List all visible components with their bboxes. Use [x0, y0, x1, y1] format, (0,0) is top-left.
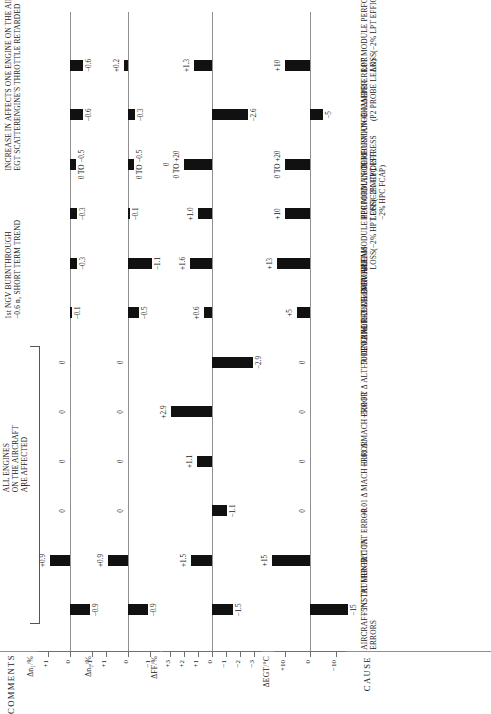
- bar-value-label: +1.6: [179, 234, 187, 294]
- bar-value-label: −0.5: [141, 283, 149, 343]
- tick-ff-6: [254, 651, 255, 657]
- bar: [194, 60, 212, 71]
- tick-n1-1: [70, 651, 71, 657]
- bar-value-label: −2.9: [255, 333, 263, 393]
- bar-value-label: +1.3: [183, 36, 191, 96]
- bar: [128, 110, 135, 121]
- bar-value-label: +10: [274, 36, 282, 96]
- tick-label-n2-2: −1: [144, 660, 152, 714]
- bar: [297, 308, 310, 319]
- bar-value-label: +0.2: [113, 36, 121, 96]
- tick-label-egt-2: −10: [330, 660, 338, 714]
- bar: [128, 209, 130, 220]
- tick-n2-0: [106, 651, 107, 657]
- comment-label: AFFECTS ONE ENGINE ON THE AIRCRAFT ENGIN…: [4, 0, 22, 121]
- bar-value-label: −0.9: [150, 580, 158, 640]
- bar: [212, 110, 248, 121]
- bar-value-label: −0.9: [92, 580, 100, 640]
- cause-header: CAUSE: [362, 656, 372, 714]
- bar: [108, 555, 128, 566]
- tick-egt-2: [336, 651, 337, 657]
- tick-ff-0: [170, 651, 171, 657]
- bar: [70, 258, 77, 269]
- bar: [70, 209, 77, 220]
- bar: [171, 407, 212, 418]
- bar-value-label: 0: [59, 333, 67, 393]
- tick-ff-4: [226, 651, 227, 657]
- bar-value-label: 0 TO +20: [173, 135, 181, 195]
- axis-title-egt: ΔEGT/°C: [262, 656, 271, 714]
- bar-value-label: −5: [325, 85, 333, 145]
- tick-egt-1: [310, 651, 311, 657]
- bar-value-label: 0: [299, 333, 307, 393]
- tick-ff-1: [184, 651, 185, 657]
- bar: [277, 258, 310, 269]
- tick-ff-5: [240, 651, 241, 657]
- bar: [70, 605, 90, 616]
- bar: [124, 60, 128, 71]
- tick-label-egt-0: +10: [279, 660, 287, 714]
- bar: [128, 258, 152, 269]
- tick-n2-2: [150, 651, 151, 657]
- tick-label-ff-3: 0: [206, 660, 214, 714]
- tick-n1-2: [92, 651, 93, 657]
- bar: [70, 110, 83, 121]
- axis-title-n1: Δn₁/%: [26, 656, 35, 714]
- bar-value-label: −1.1: [154, 234, 162, 294]
- tick-label-n2-1: 0: [122, 660, 130, 714]
- tick-label-ff-0: +3: [164, 660, 172, 714]
- bar: [70, 159, 76, 170]
- tick-label-n1-1: 0: [64, 660, 72, 714]
- bar-value-label: +0.9: [39, 531, 47, 591]
- tick-label-ff-2: +1: [192, 660, 200, 714]
- bar-value-label: −0.6: [85, 36, 93, 96]
- bar: [310, 110, 323, 121]
- baseline-n2: [128, 12, 129, 652]
- bar-value-label: +0.6: [193, 283, 201, 343]
- bar-value-label: +5: [286, 283, 294, 343]
- bar: [285, 60, 311, 71]
- bar-value-label: −2.6: [250, 85, 258, 145]
- bar-value-label: −1.1: [229, 481, 237, 541]
- bar-value-label: −0.3: [137, 85, 145, 145]
- tick-n1-0: [48, 651, 49, 657]
- bar-value-label: −1.5: [235, 580, 243, 640]
- tick-label-egt-1: 0: [304, 660, 312, 714]
- tick-label-ff-6: −3: [248, 660, 256, 714]
- bar: [285, 209, 311, 220]
- bar-value-label: +1.1: [186, 432, 194, 492]
- tick-label-n2-0: +1: [100, 660, 108, 714]
- bar: [50, 555, 70, 566]
- bar-value-label: −15: [350, 580, 358, 640]
- bar-value-label: +1.5: [180, 531, 188, 591]
- bar: [197, 456, 212, 467]
- bar-value-label: +15: [261, 531, 269, 591]
- comments-header: COMMENTS: [6, 656, 16, 714]
- figure-stage: +100−10ΔEGT/°C−15+150000+5+13+100 TO +20…: [0, 0, 491, 714]
- bar: [198, 209, 212, 220]
- tick-egt-0: [285, 651, 286, 657]
- bar: [70, 308, 72, 319]
- bar: [70, 60, 83, 71]
- bar: [128, 605, 148, 616]
- bracket-note: ALL ENGINES ON THE AIRCRAFT ARE AFFECTED: [2, 332, 29, 492]
- tick-label-ff-4: −1: [220, 660, 228, 714]
- bar: [204, 308, 212, 319]
- bar: [212, 605, 233, 616]
- tick-ff-2: [198, 651, 199, 657]
- bar-value-label: +1.0: [187, 184, 195, 244]
- tick-ff-3: [212, 651, 213, 657]
- cause-label: LPT MODULE PERFORMANCE LOSS(−2% LPT EFFI…: [360, 0, 378, 72]
- baseline-egt: [310, 12, 311, 652]
- bar: [272, 555, 310, 566]
- tick-label-ff-5: −2: [234, 660, 242, 714]
- tick-label-ff-1: +2: [178, 660, 186, 714]
- bar: [128, 159, 134, 170]
- bar-value-label: +2.9: [160, 382, 168, 442]
- bar: [184, 159, 212, 170]
- tick-n2-1: [128, 651, 129, 657]
- bar: [310, 605, 348, 616]
- baseline-n1: [70, 12, 71, 652]
- bar: [190, 258, 212, 269]
- bar-value-label: 0: [117, 333, 125, 393]
